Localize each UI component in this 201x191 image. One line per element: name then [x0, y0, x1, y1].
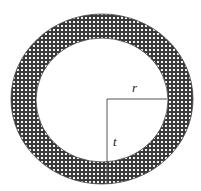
radius-label: r [132, 80, 137, 96]
annulus-figure [0, 0, 201, 191]
thickness-label: t [113, 134, 117, 150]
annulus-diagram: r t [0, 0, 201, 191]
